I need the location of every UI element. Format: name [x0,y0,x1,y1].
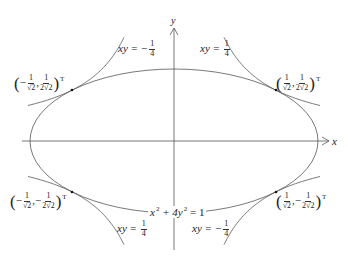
close-paren: ) [315,192,321,211]
hyperbola-label-lower-left: xy = 14 [117,220,148,238]
ellipse-label: x2 + 4y2 = 1 [148,206,206,218]
x-fraction: 1√2 [283,192,291,210]
hyperbola-label-upper-right: xy = 14 [200,40,231,58]
hyperbola-label-upper-left: xy = −14 [118,40,156,58]
open-paren: ( [276,74,282,93]
x-fraction: 1√2 [283,74,291,92]
hyperbola-eq-lhs: xy = − [192,222,222,234]
denominator: 2√2 [42,202,54,211]
tangent-point-lower-left [71,191,74,194]
fraction: 14 [149,40,155,58]
fraction: 14 [141,220,147,238]
hyperbola-lower-right [224,177,320,245]
hyperbola-eq-lhs: xy = [200,42,223,54]
y-fraction: 12√2 [302,192,314,210]
exponent: 2 [184,205,188,213]
x-sign: − [20,76,26,88]
point-label-lower-left: (−1√2,−12√2)T [10,192,67,210]
x-sign: − [16,194,22,206]
hyperbola-label-lower-right: xy = −14 [192,220,230,238]
denominator: √2 [23,202,31,211]
diagram-canvas: x y [0,0,348,264]
y-fraction: 12√2 [42,192,54,210]
close-paren: ) [309,74,315,93]
ellipse-eq-rhs: = 1 [190,206,204,218]
exponent: 2 [156,205,160,213]
hyperbola-upper-right [224,37,320,105]
point-label-upper-right: (1√2,12√2)T [276,74,320,92]
denominator: 2√2 [296,84,308,93]
point-label-upper-left: (−1√2,12√2)T [14,74,64,92]
tangent-point-upper-left [71,89,74,92]
ellipse-eq-x: x [150,206,155,218]
transpose: T [62,193,66,201]
y-sign: − [35,194,41,206]
y-sign: − [295,194,301,206]
x-fraction: 1√2 [27,74,35,92]
denominator: 2√2 [40,84,52,93]
denominator: √2 [283,202,291,211]
hyperbola-eq-lhs: xy = [117,222,140,234]
hyperbola-lower-left [28,177,124,245]
x-fraction: 1√2 [23,192,31,210]
denominator: 2√2 [302,202,314,211]
hyperbola-eq-lhs: xy = − [118,42,148,54]
fraction: 14 [223,220,229,238]
open-paren: ( [276,192,282,211]
denominator: 4 [224,230,228,239]
y-axis-label: y [170,15,176,26]
denominator: 4 [150,50,154,59]
fraction: 14 [224,40,230,58]
y-fraction: 12√2 [296,74,308,92]
transpose: T [316,75,320,83]
denominator: 4 [225,50,229,59]
close-paren: ) [53,74,59,93]
denominator: √2 [283,84,291,93]
denominator: √2 [27,84,35,93]
transpose: T [60,75,64,83]
close-paren: ) [56,192,62,211]
denominator: 4 [142,230,146,239]
x-axis-label: x [331,135,337,147]
transpose: T [322,193,326,201]
ellipse-eq-4y: + 4y [162,206,183,218]
y-fraction: 12√2 [40,74,52,92]
point-label-lower-right: (1√2,−12√2)T [276,192,326,210]
hyperbola-upper-left [28,37,124,105]
